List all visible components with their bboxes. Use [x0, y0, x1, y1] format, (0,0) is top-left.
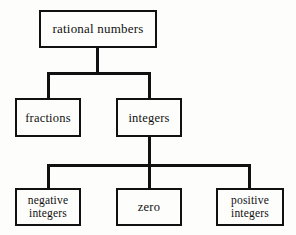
edge-bus-to-fractions [47, 72, 50, 99]
edge-bus-to-integers [148, 72, 151, 99]
node-label-zero: zero [138, 200, 160, 214]
edge-root-to-bus [96, 48, 99, 74]
edge-bus-to-zero [148, 164, 151, 189]
node-rational-numbers[interactable]: rational numbers [39, 10, 157, 48]
node-positive-integers[interactable]: positive integers [216, 188, 284, 226]
node-integers[interactable]: integers [116, 98, 182, 137]
node-negative-integers[interactable]: negative integers [15, 188, 81, 226]
edge-bus-level1 [47, 72, 151, 75]
edge-bus-to-positive-integers [248, 164, 251, 189]
node-label-negative-integers: negative integers [28, 194, 69, 220]
node-label-integers: integers [128, 111, 169, 125]
node-label-positive-integers: positive integers [231, 194, 269, 220]
edge-bus-to-negative-integers [47, 164, 50, 189]
diagram-canvas: rational numbers fractions integers nega… [0, 0, 296, 235]
node-label-rational-numbers: rational numbers [53, 22, 144, 37]
node-fractions[interactable]: fractions [15, 98, 81, 137]
node-zero[interactable]: zero [116, 188, 182, 226]
node-label-fractions: fractions [25, 111, 71, 125]
edge-integers-to-bus [148, 137, 151, 166]
